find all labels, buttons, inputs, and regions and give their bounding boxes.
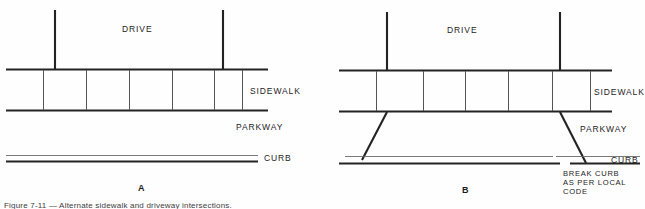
panel-b-drive-label: DRIVE <box>447 25 477 35</box>
panel-a-curb-label: CURB <box>264 153 292 163</box>
panel-b-caption: B <box>462 185 469 195</box>
technical-drawing-svg <box>0 0 645 209</box>
panel-b-flare-right <box>560 112 586 163</box>
panel-b-sidewalk-label: SIDEWALK <box>594 87 645 97</box>
figure-bottom-caption: Figure 7-11 — Alternate sidewalk and dri… <box>4 201 232 209</box>
panel-b-flare-left <box>362 112 387 160</box>
break-curb-note-line-3: CODE <box>563 188 588 197</box>
panel-a-drive-label: DRIVE <box>122 24 152 34</box>
panel-b-parkway-label: PARKWAY <box>580 124 627 134</box>
figure-container: DRIVE SIDEWALK PARKWAY CURB A DRIVE SIDE… <box>0 0 645 209</box>
panel-a-sidewalk-label: SIDEWALK <box>250 86 301 96</box>
panel-a-caption: A <box>138 183 145 193</box>
panel-b-curb-label: CURB <box>611 155 639 165</box>
panel-a-parkway-label: PARKWAY <box>236 122 283 132</box>
